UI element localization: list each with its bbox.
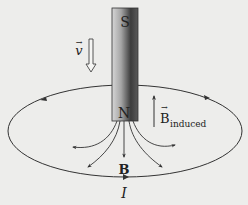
bar-magnet: S N	[112, 8, 138, 121]
magnet-field-lines	[73, 121, 175, 167]
magnet-field-label: B	[119, 162, 130, 177]
south-pole-label: S	[120, 14, 130, 30]
induced-field-label: B	[160, 111, 170, 126]
north-pole-label: N	[118, 105, 130, 121]
induced-field-subscript: induced	[170, 119, 207, 129]
velocity-arrow-icon	[86, 39, 96, 72]
lenz-diagram: S N v → B → induced B I	[0, 0, 248, 205]
velocity-vector-mark: →	[76, 38, 83, 47]
current-label: I	[120, 185, 127, 201]
induced-field-vector-mark: →	[161, 103, 168, 112]
